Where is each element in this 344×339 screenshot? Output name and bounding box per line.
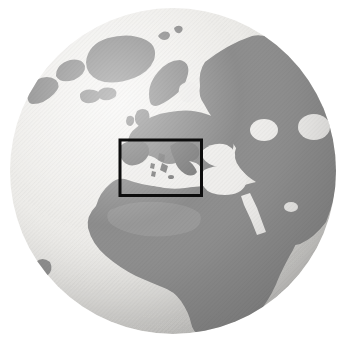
- screenshot-root: [0, 0, 344, 339]
- globe-figure: [0, 0, 344, 339]
- halftone-texture-overlay: [10, 8, 336, 334]
- globe-image: [0, 0, 344, 339]
